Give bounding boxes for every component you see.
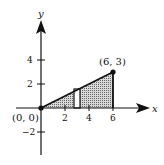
y-tick-4: 4 [27,55,33,65]
y-tick-neg2: −2 [22,127,35,137]
x-tick-4: 4 [86,113,92,123]
point-origin [38,105,43,110]
x-tick-6: 6 [110,113,116,123]
y-tick-2: 2 [27,79,33,89]
point-6-3 [110,69,115,74]
y-axis-label: y [37,8,44,19]
x-tick-2: 2 [62,113,68,123]
label-6-3: (6, 3) [99,56,126,67]
figure: y x 2 4 6 4 2 −2 (0, 0) (6, 3) [0,0,164,165]
region-diagram: y x 2 4 6 4 2 −2 (0, 0) (6, 3) [0,0,164,165]
label-origin: (0, 0) [12,112,39,123]
x-axis-label: x [152,103,158,114]
